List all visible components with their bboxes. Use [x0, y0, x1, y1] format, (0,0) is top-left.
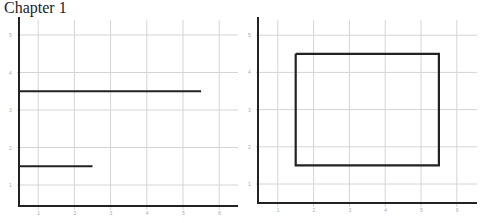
x-tick-label: 1 [37, 210, 40, 216]
x-tick-label: 2 [73, 210, 76, 216]
x-tick-label: 6 [218, 210, 221, 216]
y-tick-label: 4 [248, 69, 251, 75]
y-tick-label: 5 [9, 32, 12, 38]
y-tick-label: 3 [9, 107, 12, 113]
charts-canvas: 1234561234512345612345 [0, 0, 491, 223]
y-tick-label: 2 [9, 145, 12, 151]
x-tick-label: 3 [110, 210, 113, 216]
y-tick-label: 2 [248, 144, 251, 150]
x-tick-label: 5 [420, 207, 423, 213]
x-tick-label: 2 [313, 207, 316, 213]
x-tick-label: 6 [456, 207, 459, 213]
x-tick-label: 4 [146, 210, 149, 216]
x-tick-label: 3 [348, 207, 351, 213]
x-tick-label: 5 [182, 210, 185, 216]
y-tick-label: 3 [248, 107, 251, 113]
y-tick-label: 4 [9, 70, 12, 76]
x-tick-label: 4 [384, 207, 387, 213]
y-tick-label: 5 [248, 32, 251, 38]
y-tick-label: 1 [9, 182, 12, 188]
x-tick-label: 1 [277, 207, 280, 213]
y-tick-label: 1 [248, 181, 251, 187]
